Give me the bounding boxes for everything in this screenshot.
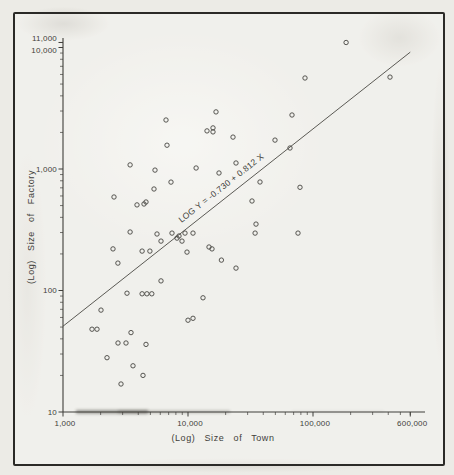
data-point	[201, 296, 205, 300]
data-point	[159, 279, 163, 283]
x-tick-label: 10,000	[177, 419, 203, 428]
data-point	[205, 129, 209, 133]
data-point	[145, 292, 149, 296]
scatter-plot-canvas: 1,00010,000100,000600,00011,00010,0001,0…	[0, 0, 454, 475]
data-point	[124, 341, 128, 345]
data-point	[99, 308, 103, 312]
data-point	[231, 135, 235, 139]
x-tick-label: 100,000	[300, 419, 331, 428]
data-point	[119, 382, 123, 386]
y-tick-label: 1,000	[36, 165, 57, 174]
data-point	[112, 195, 116, 199]
data-point	[217, 171, 221, 175]
data-point	[219, 258, 223, 262]
data-point	[234, 161, 238, 165]
data-point	[111, 247, 115, 251]
data-point	[144, 342, 148, 346]
data-point	[159, 239, 163, 243]
data-point	[303, 76, 307, 80]
data-point	[105, 356, 109, 360]
data-point	[150, 292, 154, 296]
data-point	[180, 239, 184, 243]
data-point	[170, 231, 174, 235]
data-point	[140, 292, 144, 296]
data-point	[296, 231, 300, 235]
data-point	[191, 231, 195, 235]
data-point	[128, 163, 132, 167]
data-point	[155, 232, 159, 236]
data-point	[116, 261, 120, 265]
y-tick-label: 10	[48, 408, 58, 417]
data-point	[186, 318, 190, 322]
data-point	[153, 168, 157, 172]
data-point	[148, 249, 152, 253]
data-point	[165, 143, 169, 147]
data-point	[95, 327, 99, 331]
y-axis-title: (Log) Size of Factory	[26, 170, 36, 284]
data-point	[183, 231, 187, 235]
data-point	[298, 185, 302, 189]
scan-smudge	[292, 411, 384, 413]
data-point	[194, 166, 198, 170]
data-point	[116, 341, 120, 345]
x-tick-label: 1,000	[54, 419, 75, 428]
scan-smudge	[118, 411, 230, 414]
data-point	[191, 316, 195, 320]
data-point	[250, 199, 254, 203]
y-tick-label: 100	[43, 286, 57, 295]
data-point	[254, 222, 258, 226]
data-point	[152, 187, 156, 191]
data-point	[214, 110, 218, 114]
x-tick-label: 600,000	[397, 419, 428, 428]
data-point	[90, 327, 94, 331]
data-point	[273, 138, 277, 142]
y-tick-label: 10,000	[31, 46, 57, 55]
data-point	[344, 40, 348, 44]
data-point	[169, 180, 173, 184]
y-tick-label: 11,000	[32, 34, 57, 43]
data-point	[258, 180, 262, 184]
data-point	[185, 250, 189, 254]
data-point	[164, 118, 168, 122]
data-point	[253, 231, 257, 235]
data-point	[290, 113, 294, 117]
x-axis-title: (Log) Size of Town	[171, 433, 274, 443]
data-point	[140, 249, 144, 253]
data-point	[129, 330, 133, 334]
regression-line	[63, 52, 410, 326]
data-point	[131, 364, 135, 368]
data-point	[125, 291, 129, 295]
data-point	[388, 75, 392, 79]
data-point	[128, 230, 132, 234]
scanned-figure: 1,00010,000100,000600,00011,00010,0001,0…	[0, 0, 454, 475]
data-point	[135, 203, 139, 207]
data-point	[141, 373, 145, 377]
data-point	[234, 266, 238, 270]
